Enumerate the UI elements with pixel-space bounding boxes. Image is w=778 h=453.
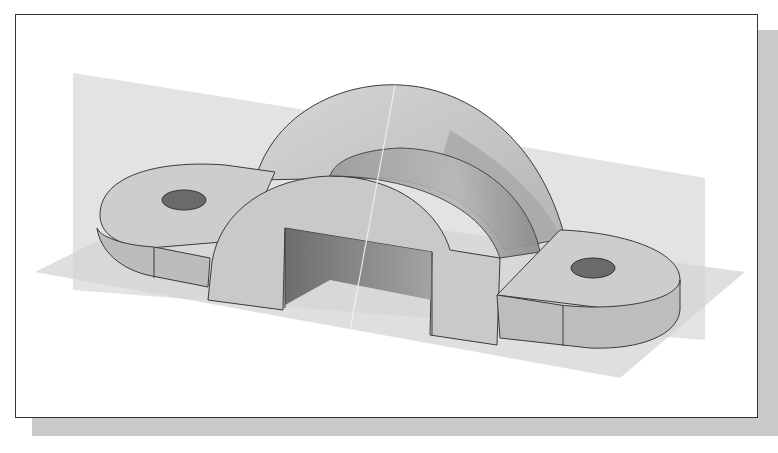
left-hole (162, 190, 206, 210)
right-hole (571, 258, 615, 278)
part-rendering (0, 0, 778, 453)
